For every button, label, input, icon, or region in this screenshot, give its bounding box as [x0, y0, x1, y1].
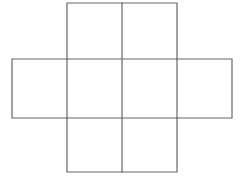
cube-net-diagram — [0, 0, 245, 180]
figure-canvas — [0, 0, 245, 180]
